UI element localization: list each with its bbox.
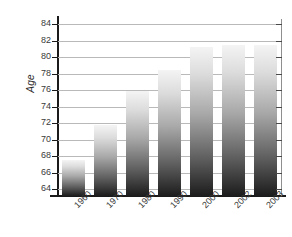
y-axis-tick-label: 82 <box>31 35 51 45</box>
bar <box>254 45 277 196</box>
bar <box>94 125 117 196</box>
y-axis-tick-label: 80 <box>31 51 51 61</box>
y-axis-tick-right <box>276 90 282 91</box>
plot-area <box>58 19 282 196</box>
y-axis-tick-label: 76 <box>31 84 51 94</box>
y-axis-tick-right <box>276 57 282 58</box>
y-axis-tick-right <box>276 140 282 141</box>
y-axis-tick <box>52 41 58 42</box>
y-axis-tick <box>52 57 58 58</box>
y-axis-tick-label: 70 <box>31 134 51 144</box>
y-axis-tick-label: 74 <box>31 101 51 111</box>
y-axis-tick-label-group: 6466687072747678808284 <box>25 0 51 237</box>
y-axis-tick <box>52 90 58 91</box>
y-axis-tick-right <box>276 74 282 75</box>
y-axis-tick <box>52 24 58 25</box>
bar-chart-figure: Age 6466687072747678808284 1960197019801… <box>0 0 292 237</box>
y-axis-tick <box>52 123 58 124</box>
y-axis-tick-label: 72 <box>31 117 51 127</box>
bar <box>190 47 213 196</box>
y-axis-tick-right <box>276 123 282 124</box>
y-axis-tick <box>52 156 58 157</box>
bar <box>126 91 149 196</box>
y-axis-tick-right <box>276 173 282 174</box>
y-axis-tick-right <box>276 156 282 157</box>
y-axis-tick <box>52 107 58 108</box>
y-axis-tick-right <box>276 24 282 25</box>
x-axis-tick-label-group: 1960197019801990200020022003 <box>58 197 288 237</box>
bar <box>222 45 245 196</box>
bars-layer <box>58 19 282 196</box>
y-axis-tick-label: 84 <box>31 18 51 28</box>
y-axis-tick <box>52 140 58 141</box>
y-axis-tick <box>52 173 58 174</box>
bar <box>158 70 181 196</box>
bar <box>62 160 85 196</box>
y-axis-tick-right <box>276 41 282 42</box>
y-axis-tick-label: 64 <box>31 183 51 193</box>
y-axis-tick-label: 68 <box>31 150 51 160</box>
y-axis-tick <box>52 74 58 75</box>
y-axis-tick-label: 78 <box>31 68 51 78</box>
y-axis-tick-label: 66 <box>31 167 51 177</box>
y-axis-tick-right <box>276 107 282 108</box>
y-axis-tick <box>52 189 58 190</box>
y-axis-tick-right <box>276 189 282 190</box>
